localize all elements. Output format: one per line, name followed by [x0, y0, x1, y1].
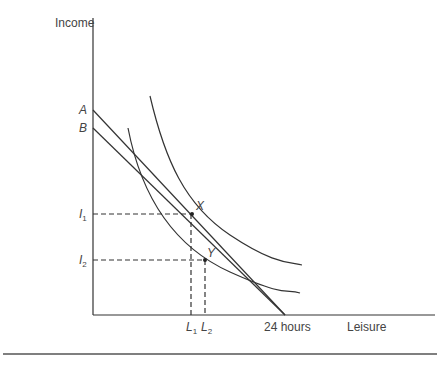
label-Y: Y	[207, 247, 215, 259]
indifference-curve-lower	[128, 128, 300, 293]
x-end-label: 24 hours	[264, 321, 311, 333]
budget-line-B	[93, 128, 285, 315]
label-B: B	[79, 122, 87, 134]
point-X	[190, 212, 194, 216]
indifference-curve-upper	[150, 96, 302, 265]
label-X: X	[196, 200, 204, 212]
tick-I2: I2	[79, 254, 87, 269]
budget-line-A	[93, 110, 285, 315]
diagram-canvas	[0, 0, 441, 372]
y-axis-label: Income	[55, 17, 94, 29]
tick-I1: I1	[79, 208, 87, 223]
tick-L2: L2	[201, 321, 212, 336]
label-A: A	[79, 104, 87, 116]
tick-L1: L1	[186, 321, 197, 336]
x-axis-label: Leisure	[347, 321, 386, 333]
